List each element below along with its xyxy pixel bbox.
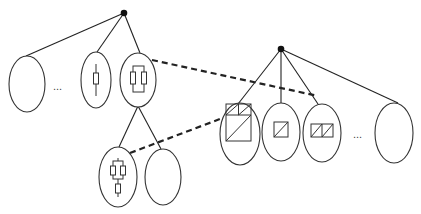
node-I [375,103,413,163]
ellipsis-right: ... [353,128,362,140]
node-E [145,149,181,205]
right-tree-edges [238,49,398,104]
node-C [120,53,156,107]
ellipsis-left: ... [53,80,62,92]
right-root-node [278,46,285,53]
node-A [9,56,45,112]
node-D [99,147,137,207]
node-F [220,103,260,165]
edge-C-E [138,106,161,149]
edge-C-D [119,106,138,147]
tree-correspondence-diagram: ... [0,0,421,214]
edge-root2-F [238,49,281,104]
node-H [303,104,341,162]
node-G [262,103,300,161]
edge-root-C [124,13,140,53]
left-root-node [121,10,128,17]
node-B [81,52,111,108]
dashed-link-C-H [152,60,318,96]
dashed-link-D-F [130,119,220,153]
